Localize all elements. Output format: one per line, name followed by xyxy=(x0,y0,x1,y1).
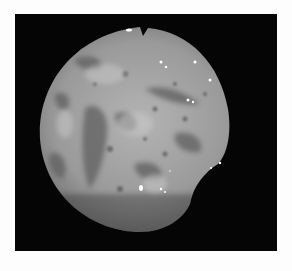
endoscopy-image-frame xyxy=(15,14,277,251)
endoscopy-view xyxy=(15,14,277,251)
tissue-region xyxy=(15,14,277,251)
